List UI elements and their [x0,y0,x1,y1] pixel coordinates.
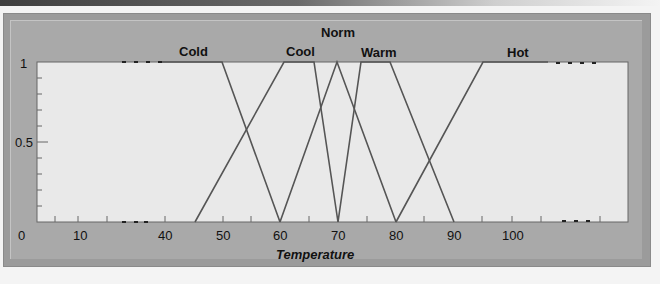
plot-area [37,62,628,222]
x-tick-label-60: 60 [273,228,287,243]
x-tick-label-50: 50 [216,228,230,243]
x-tick-label-40: 40 [158,228,172,243]
mf-label-cold: Cold [179,44,208,59]
x-axis-title: Temperature [276,247,354,262]
mf-label-warm: Warm [361,45,397,60]
mf-label-cool: Cool [286,44,315,59]
x-tick-label-0: 0 [18,228,25,243]
y-tick-label-1: 1 [20,56,27,71]
mf-label-norm: Norm [321,25,355,40]
x-tick-label-100: 100 [502,228,524,243]
membership-function-chart: Cold Cool Norm Warm Hot 1 0.5 0 10 40 50… [0,0,660,284]
x-tick-label-70: 70 [331,228,345,243]
x-tick-label-10: 10 [73,228,87,243]
x-tick-label-90: 90 [447,228,461,243]
x-tick-label-80: 80 [389,228,403,243]
mf-label-hot: Hot [507,45,529,60]
y-tick-label-0-5: 0.5 [15,135,33,150]
